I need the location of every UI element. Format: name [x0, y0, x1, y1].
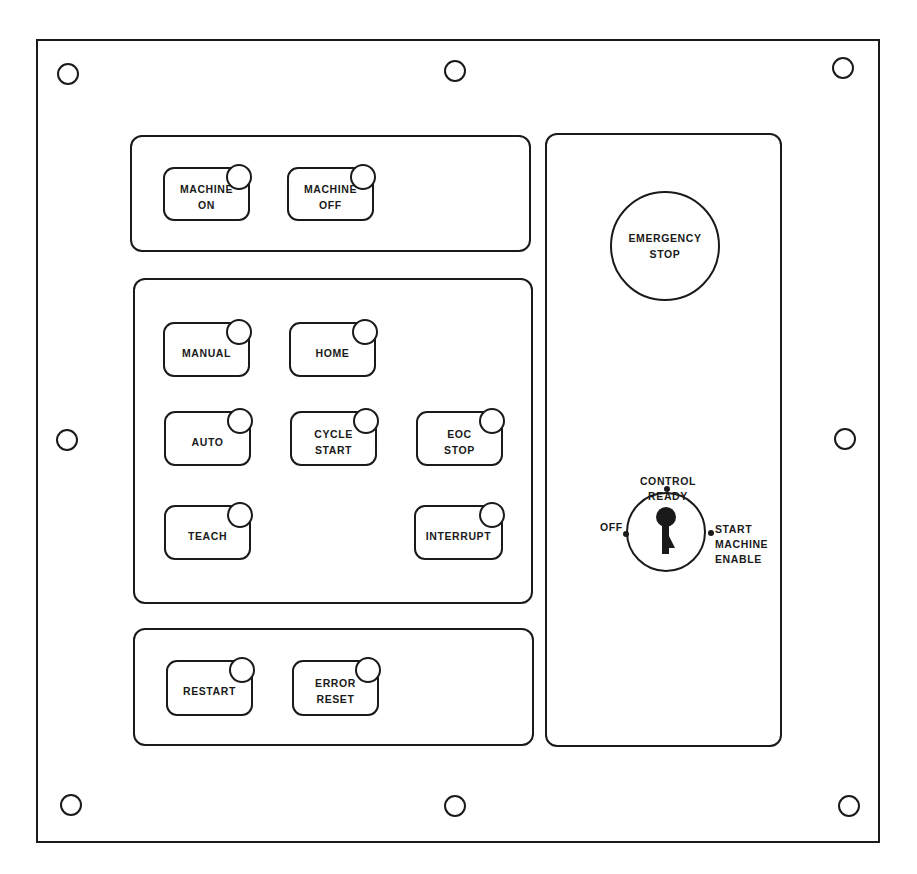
- button-label: RESTART: [183, 683, 236, 699]
- manual-button[interactable]: MANUAL: [163, 322, 250, 377]
- mounting-hole-icon: [444, 60, 466, 82]
- key-position-control-ready-label: CONTROL READY: [628, 474, 708, 504]
- machine-off-button[interactable]: MACHINE OFF: [287, 167, 374, 221]
- eoc-stop-button[interactable]: EOC STOP: [416, 411, 503, 466]
- mounting-hole-icon: [838, 795, 860, 817]
- button-label: AUTO: [192, 434, 224, 450]
- button-label: CYCLE START: [314, 426, 353, 458]
- indicator-lamp-icon: [479, 408, 505, 434]
- key-position-start-machine-enable-label: START MACHINE ENABLE: [715, 522, 768, 567]
- indicator-lamp-icon: [479, 502, 505, 528]
- indicator-lamp-icon: [229, 657, 255, 683]
- key-switch[interactable]: [626, 492, 706, 572]
- mounting-hole-icon: [834, 428, 856, 450]
- button-label: MANUAL: [182, 345, 231, 361]
- position-marker-start: [708, 530, 714, 536]
- teach-button[interactable]: TEACH: [164, 505, 251, 560]
- machine-on-button[interactable]: MACHINE ON: [163, 167, 250, 221]
- mounting-hole-icon: [60, 794, 82, 816]
- mounting-hole-icon: [444, 795, 466, 817]
- emergency-stop-button[interactable]: EMERGENCY STOP: [610, 191, 720, 301]
- indicator-lamp-icon: [226, 319, 252, 345]
- button-label: ERROR RESET: [315, 675, 356, 707]
- home-button[interactable]: HOME: [289, 322, 376, 377]
- indicator-lamp-icon: [353, 408, 379, 434]
- indicator-lamp-icon: [350, 164, 376, 190]
- interrupt-button[interactable]: INTERRUPT: [414, 505, 503, 560]
- auto-button[interactable]: AUTO: [164, 411, 251, 466]
- button-label: EOC STOP: [444, 426, 475, 458]
- key-position-off-label: OFF: [600, 520, 623, 535]
- cycle-start-button[interactable]: CYCLE START: [290, 411, 377, 466]
- button-label: MACHINE OFF: [304, 181, 357, 213]
- indicator-lamp-icon: [226, 164, 252, 190]
- indicator-lamp-icon: [352, 319, 378, 345]
- emergency-stop-label: EMERGENCY STOP: [628, 230, 701, 262]
- mounting-hole-icon: [57, 63, 79, 85]
- mounting-hole-icon: [56, 429, 78, 451]
- button-label: INTERRUPT: [426, 528, 491, 544]
- error-reset-button[interactable]: ERROR RESET: [292, 660, 379, 716]
- indicator-lamp-icon: [355, 657, 381, 683]
- indicator-lamp-icon: [227, 408, 253, 434]
- button-label: HOME: [316, 345, 350, 361]
- mounting-hole-icon: [832, 57, 854, 79]
- position-marker-off: [623, 531, 629, 537]
- button-label: MACHINE ON: [180, 181, 233, 213]
- button-label: TEACH: [188, 528, 227, 544]
- restart-button[interactable]: RESTART: [166, 660, 253, 716]
- indicator-lamp-icon: [227, 502, 253, 528]
